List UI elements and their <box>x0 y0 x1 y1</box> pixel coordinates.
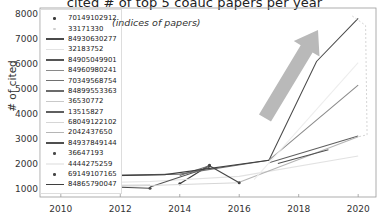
legend-marker-dot-icon <box>44 13 66 23</box>
legend[interactable]: 7014910291233171330849306302773218375284… <box>40 9 122 194</box>
legend-item-label: 33171330 <box>66 25 103 33</box>
legend-item[interactable]: 4444275259 <box>44 158 117 168</box>
legend-item[interactable]: 84960980241 <box>44 65 117 75</box>
legend-item[interactable]: 68049122102 <box>44 117 117 127</box>
legend-item-label: 32183752 <box>66 45 103 53</box>
legend-marker-line-icon <box>44 44 66 54</box>
legend-item-label: 84905049901 <box>66 56 117 64</box>
legend-item-label: 84899553363 <box>66 87 117 95</box>
legend-marker-line-icon <box>44 138 66 148</box>
legend-marker-dot-icon <box>44 24 66 34</box>
legend-item[interactable]: 70349568754 <box>44 75 117 85</box>
legend-item-label: 84960980241 <box>66 66 117 74</box>
legend-item[interactable]: 84905049901 <box>44 55 117 65</box>
legend-item-label: 2042437650 <box>66 128 112 136</box>
legend-marker-dot-icon <box>44 169 66 179</box>
legend-item[interactable]: 69149107165 <box>44 169 117 179</box>
legend-marker-dot-icon <box>44 148 66 158</box>
series-line <box>352 16 367 137</box>
series-line <box>120 187 150 188</box>
legend-item-label: 84937849144 <box>66 139 117 147</box>
legend-marker-line-icon <box>44 55 66 65</box>
legend-item-label: 36530772 <box>66 97 103 105</box>
growth-arrow-shape <box>259 30 320 122</box>
legend-item[interactable]: 32183752 <box>44 44 117 54</box>
chart-root: cited # of top 5 coauc papers per year #… <box>0 0 389 222</box>
legend-marker-line-icon <box>44 179 66 189</box>
legend-item[interactable]: 33171330 <box>44 23 117 33</box>
legend-marker-line-icon <box>44 96 66 106</box>
legend-item[interactable]: 84865790047 <box>44 179 117 189</box>
legend-item-label: 4444275259 <box>66 160 112 168</box>
legend-item[interactable]: 36647193 <box>44 148 117 158</box>
legend-item[interactable]: 13515827 <box>44 107 117 117</box>
legend-item[interactable]: 84930630277 <box>44 34 117 44</box>
legend-item-label: 13515827 <box>66 108 103 116</box>
series-line <box>254 63 358 180</box>
legend-marker-line-icon <box>44 34 66 44</box>
legend-item[interactable]: 2042437650 <box>44 127 117 137</box>
legend-marker-line-icon <box>44 107 66 117</box>
series-line <box>278 150 329 164</box>
legend-item[interactable]: 84899553363 <box>44 86 117 96</box>
legend-marker-line-icon <box>44 76 66 86</box>
legend-item[interactable]: 36530772 <box>44 96 117 106</box>
legend-marker-line-icon <box>44 86 66 96</box>
legend-item-label: 36647193 <box>66 149 103 157</box>
legend-item-label: 70149102912 <box>66 14 117 22</box>
legend-item-label: 70349568754 <box>66 77 117 85</box>
legend-item-label: 69149107165 <box>66 170 117 178</box>
legend-marker-line-icon <box>44 159 66 169</box>
legend-item[interactable]: 70149102912 <box>44 13 117 23</box>
legend-marker-line-icon <box>44 65 66 75</box>
legend-annotation: (indices of papers) <box>112 17 201 28</box>
legend-item-label: 84930630277 <box>66 35 117 43</box>
legend-marker-line-icon <box>44 127 66 137</box>
legend-item[interactable]: 84937849144 <box>44 138 117 148</box>
growth-arrow-icon <box>259 30 320 122</box>
legend-item-label: 68049122102 <box>66 118 117 126</box>
legend-marker-line-icon <box>44 117 66 127</box>
legend-item-label: 84865790047 <box>66 180 117 188</box>
